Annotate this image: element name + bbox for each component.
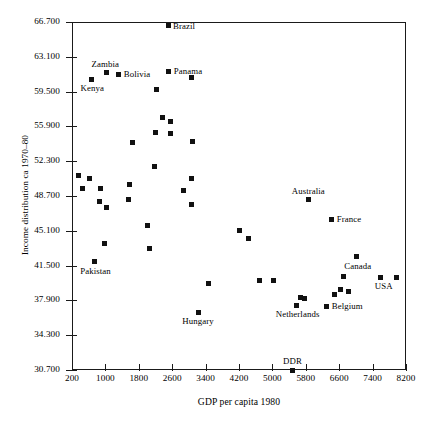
data-point-zambia: [104, 70, 109, 75]
x-tick-mark: [206, 364, 207, 371]
data-point: [126, 197, 131, 202]
data-point-label: Hungary: [182, 317, 213, 326]
x-tick-mark: [105, 364, 106, 371]
data-point: [181, 188, 186, 193]
x-tick-mark: [239, 364, 240, 371]
data-point: [237, 228, 242, 233]
y-tick-mark-inner: [72, 92, 77, 93]
data-point: [271, 278, 276, 283]
data-point: [130, 140, 135, 145]
data-point-label: Bolivia: [124, 70, 151, 79]
y-tick-mark-inner: [72, 57, 77, 58]
data-point-brazil: [166, 23, 171, 28]
data-point: [257, 278, 262, 283]
x-tick-label: 8200: [384, 373, 428, 383]
y-tick-mark-inner: [72, 196, 77, 197]
data-point: [160, 115, 165, 120]
y-tick-label: 59.500: [14, 86, 60, 96]
y-tick-mark-inner: [72, 161, 77, 162]
data-point: [189, 75, 194, 80]
data-point: [147, 246, 152, 251]
data-point-kenya: [89, 77, 94, 82]
data-point-label: USA: [375, 282, 393, 291]
data-point: [80, 186, 85, 191]
x-tick-mark: [172, 364, 173, 371]
y-tick-mark-inner: [72, 335, 77, 336]
y-tick-mark-inner: [72, 300, 77, 301]
y-tick-label: 48.700: [14, 190, 60, 200]
data-point: [97, 199, 102, 204]
y-tick-label: 41.500: [14, 260, 60, 270]
y-tick-label: 34.300: [14, 329, 60, 339]
data-point: [190, 139, 195, 144]
x-tick-mark: [139, 364, 140, 371]
data-point-label: DDR: [283, 357, 302, 366]
data-point: [246, 236, 251, 241]
y-tick-mark-inner: [72, 126, 77, 127]
data-point: [341, 274, 346, 279]
data-point: [153, 130, 158, 135]
x-tick-mark: [272, 364, 273, 371]
y-tick-label: 55.900: [14, 120, 60, 130]
x-tick-mark: [306, 364, 307, 371]
x-axis-title: GDP per capita 1980: [72, 396, 406, 407]
y-tick-label: 52.300: [14, 155, 60, 165]
data-point-panama: [166, 69, 171, 74]
data-point-usa: [378, 275, 383, 280]
data-point-canada: [354, 254, 359, 259]
x-tick-mark: [373, 364, 374, 371]
data-point-pakistan: [92, 259, 97, 264]
data-point: [189, 202, 194, 207]
y-tick-label: 63.100: [14, 51, 60, 61]
data-point: [394, 275, 399, 280]
data-point: [168, 131, 173, 136]
data-point-belgium: [324, 304, 329, 309]
y-tick-label: 37.900: [14, 294, 60, 304]
data-point-label: Brazil: [173, 22, 195, 31]
data-point-label: Australia: [292, 187, 325, 196]
scatter-plot-figure: Income distribution ca 1970–80 GDP per c…: [0, 0, 430, 423]
data-point-netherlands: [294, 303, 299, 308]
y-tick-mark-inner: [72, 22, 77, 23]
x-tick-mark: [406, 364, 407, 371]
x-tick-mark: [339, 364, 340, 371]
data-point: [104, 205, 109, 210]
data-point: [189, 176, 194, 181]
data-point-ddr: [290, 368, 295, 373]
y-tick-mark-inner: [72, 231, 77, 232]
data-point-australia: [306, 197, 311, 202]
y-tick-label: 66.700: [14, 16, 60, 26]
data-point-label: Zambia: [92, 60, 119, 69]
data-point: [332, 292, 337, 297]
data-point: [206, 281, 211, 286]
data-point: [102, 241, 107, 246]
data-point-label: Belgium: [332, 302, 363, 311]
data-point: [302, 296, 307, 301]
data-point: [76, 173, 81, 178]
data-point-hungary: [196, 310, 201, 315]
data-point: [346, 289, 351, 294]
x-tick-mark: [72, 364, 73, 371]
y-tick-label: 45.100: [14, 225, 60, 235]
data-point-label: France: [337, 215, 362, 224]
data-point-label: Kenya: [80, 84, 103, 93]
data-point: [168, 119, 173, 124]
data-point: [87, 176, 92, 181]
data-point: [145, 223, 150, 228]
y-tick-mark-inner: [72, 266, 77, 267]
data-point-france: [329, 217, 334, 222]
data-point-label: Canada: [344, 262, 371, 271]
data-point: [338, 287, 343, 292]
data-point-label: Pakistan: [80, 267, 111, 276]
data-point: [127, 182, 132, 187]
plot-area: [72, 22, 406, 370]
data-point: [98, 186, 103, 191]
data-point: [152, 164, 157, 169]
data-point-label: Netherlands: [276, 310, 320, 319]
data-point-bolivia: [116, 72, 121, 77]
data-point: [154, 87, 159, 92]
